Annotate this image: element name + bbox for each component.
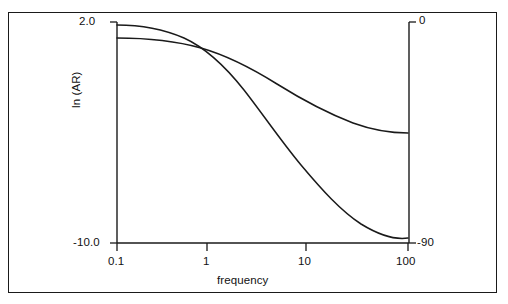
x-axis-tick-label-0.1: 0.1 bbox=[108, 255, 124, 267]
right-y-axis-max-label: 0 bbox=[419, 14, 426, 26]
x-axis-tick-label-1: 1 bbox=[203, 255, 210, 267]
right-y-axis-min-label: -90 bbox=[417, 236, 434, 248]
x-axis-tick-label-10: 10 bbox=[298, 255, 311, 267]
left-y-axis-max-label: 2.0 bbox=[79, 15, 95, 27]
magnitude-curve bbox=[117, 38, 408, 133]
x-axis-title: frequency bbox=[217, 274, 268, 286]
x-axis-tick-label-100: 100 bbox=[396, 255, 416, 267]
bode-plot-figure: 2.0 -10.0 0 -90 0.1 1 10 100 frequency l… bbox=[0, 0, 508, 304]
plot-canvas bbox=[0, 0, 508, 304]
phase-angle-curve bbox=[117, 25, 408, 238]
left-y-axis-min-label: -10.0 bbox=[73, 236, 100, 248]
y-axis-title: ln (AR) bbox=[70, 48, 82, 108]
